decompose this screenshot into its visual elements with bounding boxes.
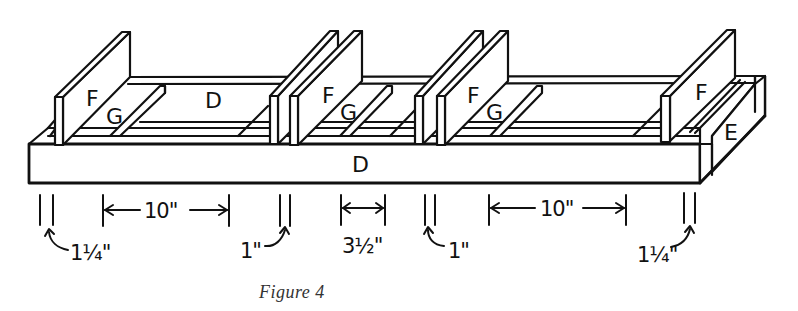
label-f-3: F (467, 83, 480, 108)
dim-label-left-pair: 1" (240, 239, 261, 263)
label-g-1: G (106, 104, 123, 129)
label-e: E (724, 120, 738, 145)
label-f-2: F (322, 83, 335, 108)
dim-label-left-end: 1¼" (70, 241, 110, 265)
dim-label-center-span: 3½" (342, 234, 382, 258)
assembly-diagram: F G D F G F G F E D (0, 0, 798, 311)
label-d-bottom: D (205, 88, 222, 113)
dim-label-right-end: 1¼" (637, 243, 677, 267)
label-f-1: F (86, 86, 99, 111)
label-f-4: F (695, 80, 708, 105)
figure-caption: Figure 4 (259, 282, 325, 303)
dim-label-right-pair: 1" (448, 239, 469, 263)
dim-label-right-span: 10" (540, 197, 573, 221)
label-d-front: D (352, 152, 369, 177)
label-g-3: G (486, 100, 503, 125)
dim-label-left-span: 10" (144, 199, 177, 223)
label-g-2: G (340, 100, 357, 125)
